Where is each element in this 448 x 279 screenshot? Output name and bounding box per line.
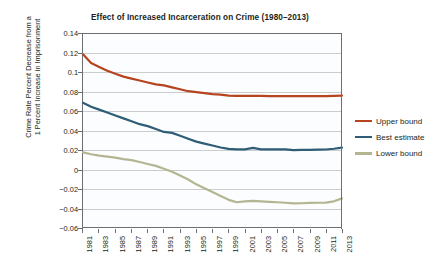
x-axis-tick-mark bbox=[293, 229, 294, 233]
series-line bbox=[83, 103, 342, 150]
legend-color-swatch bbox=[355, 152, 372, 155]
legend-item-label: Lower bound bbox=[376, 149, 422, 158]
x-axis-tick-mark bbox=[131, 229, 132, 233]
x-axis-tick-mark bbox=[228, 229, 229, 233]
y-axis-tick-label: 0.12 bbox=[44, 48, 78, 57]
x-axis-tick-mark bbox=[147, 229, 148, 233]
x-axis-tick-mark bbox=[342, 229, 343, 233]
legend-item[interactable]: Lower bound bbox=[355, 148, 424, 158]
y-axis-tick-mark bbox=[78, 189, 83, 190]
y-axis-tick-mark bbox=[78, 33, 83, 34]
y-axis-tick-mark bbox=[78, 53, 83, 54]
legend-item[interactable]: Upper bound bbox=[355, 116, 424, 126]
x-axis-tick-mark bbox=[326, 229, 327, 233]
x-axis-tick-label: 2003 bbox=[264, 236, 273, 252]
legend-item[interactable]: Best estimate bbox=[355, 132, 424, 142]
x-axis-tick-label: 1987 bbox=[134, 236, 143, 252]
legend-item-label: Upper bound bbox=[376, 117, 422, 126]
x-axis-tick-label: 1989 bbox=[150, 236, 159, 252]
x-axis-tick-mark bbox=[196, 229, 197, 233]
x-axis-tick-label: 1999 bbox=[231, 236, 240, 252]
x-axis-tick-mark bbox=[98, 229, 99, 233]
y-axis-tick-label: −0.04 bbox=[44, 204, 78, 213]
plot-right-border bbox=[341, 33, 342, 229]
y-axis-tick-label: 0 bbox=[44, 165, 78, 174]
y-axis-title-line-1: Crime Rate Percent Decrease from a bbox=[24, 16, 33, 138]
legend-color-swatch bbox=[355, 136, 372, 139]
x-axis-tick-label: 1985 bbox=[118, 236, 127, 252]
plot-area bbox=[82, 33, 342, 228]
y-axis-tick-label: −0.06 bbox=[44, 224, 78, 233]
x-axis-tick-label: 2001 bbox=[248, 236, 257, 252]
y-axis-tick-label: 0.06 bbox=[44, 107, 78, 116]
y-axis-tick-label: 0.02 bbox=[44, 146, 78, 155]
y-axis-tick-mark bbox=[78, 92, 83, 93]
x-axis-tick-label: 1981 bbox=[85, 236, 94, 252]
y-axis-tick-mark bbox=[78, 72, 83, 73]
x-axis-tick-mark bbox=[115, 229, 116, 233]
x-axis-tick-mark bbox=[163, 229, 164, 233]
y-axis-tick-label: 0.1 bbox=[44, 68, 78, 77]
x-axis-tick-mark bbox=[180, 229, 181, 233]
y-axis-tick-label: 0.04 bbox=[44, 126, 78, 135]
x-axis-tick-mark bbox=[82, 229, 83, 233]
x-axis-tick-label: 2007 bbox=[296, 236, 305, 252]
x-axis-tick-label: 1983 bbox=[101, 236, 110, 252]
x-axis-tick-mark bbox=[277, 229, 278, 233]
x-axis-tick-label: 1991 bbox=[166, 236, 175, 252]
y-axis-tick-label: 0.14 bbox=[44, 29, 78, 38]
y-axis-tick-mark bbox=[78, 209, 83, 210]
y-axis-tick-mark bbox=[78, 111, 83, 112]
y-axis-tick-mark bbox=[78, 170, 83, 171]
series-line bbox=[83, 152, 342, 203]
y-axis-title-line-2: 1 Percent Increase in Imprisonment bbox=[33, 19, 42, 136]
plot-top-border bbox=[82, 33, 342, 34]
series-lines bbox=[83, 33, 342, 227]
x-axis-tick-mark bbox=[310, 229, 311, 233]
x-axis-tick-label: 2005 bbox=[280, 236, 289, 252]
x-axis-tick-mark bbox=[212, 229, 213, 233]
chart-title: Effect of Increased Incarceration on Cri… bbox=[0, 13, 400, 22]
series-line bbox=[83, 54, 342, 96]
y-axis-tick-labels: 0.140.120.10.080.060.040.020−0.02−0.04−0… bbox=[42, 33, 78, 228]
x-axis-tick-mark bbox=[245, 229, 246, 233]
chart-legend: Upper boundBest estimateLower bound bbox=[355, 116, 424, 158]
legend-item-label: Best estimate bbox=[376, 133, 424, 142]
y-axis-tick-label: 0.08 bbox=[44, 87, 78, 96]
x-axis-tick-label: 2013 bbox=[345, 236, 354, 252]
x-axis-tick-mark bbox=[261, 229, 262, 233]
chart-figure: Effect of Increased Incarceration on Cri… bbox=[0, 0, 448, 279]
x-axis-tick-label: 2011 bbox=[329, 236, 338, 252]
x-axis-tick-label: 2009 bbox=[313, 236, 322, 252]
x-axis-tick-label: 1993 bbox=[183, 236, 192, 252]
x-axis-tick-label: 1995 bbox=[199, 236, 208, 252]
y-axis-tick-label: −0.02 bbox=[44, 185, 78, 194]
y-axis-tick-mark bbox=[78, 150, 83, 151]
x-axis-tick-label: 1997 bbox=[215, 236, 224, 252]
y-axis-tick-mark bbox=[78, 131, 83, 132]
legend-color-swatch bbox=[355, 120, 372, 123]
